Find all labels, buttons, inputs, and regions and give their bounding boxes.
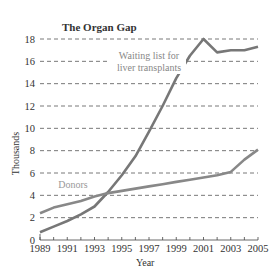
waiting-list-label: Waiting list for [119,50,180,61]
y-tick-label: 2 [30,212,35,223]
donors-label: Donors [58,179,88,190]
line-chart: 0246810121416181989199119931995199719992… [0,0,279,272]
x-tick-label: 2003 [220,243,241,254]
x-tick-label: 1989 [30,243,51,254]
y-tick-label: 10 [25,123,36,134]
x-tick-label: 1995 [111,243,132,254]
y-tick-label: 8 [30,145,35,156]
y-tick-label: 6 [30,168,35,179]
x-tick-label: 1991 [57,243,78,254]
x-tick-label: 1999 [166,243,187,254]
x-tick-label: 2005 [248,243,269,254]
annotations: Waiting list forliver transplantsDonors [56,48,186,190]
y-tick-label: 18 [25,34,36,45]
x-tick-label: 1997 [139,243,160,254]
x-tick-label: 1993 [84,243,105,254]
waiting-list-label-2: liver transplants [117,62,181,73]
y-tick-label: 12 [25,101,36,112]
y-tick-label: 4 [30,190,36,201]
y-tick-label: 14 [25,78,36,89]
x-tick-label: 2001 [193,243,214,254]
y-tick-label: 16 [25,56,36,67]
